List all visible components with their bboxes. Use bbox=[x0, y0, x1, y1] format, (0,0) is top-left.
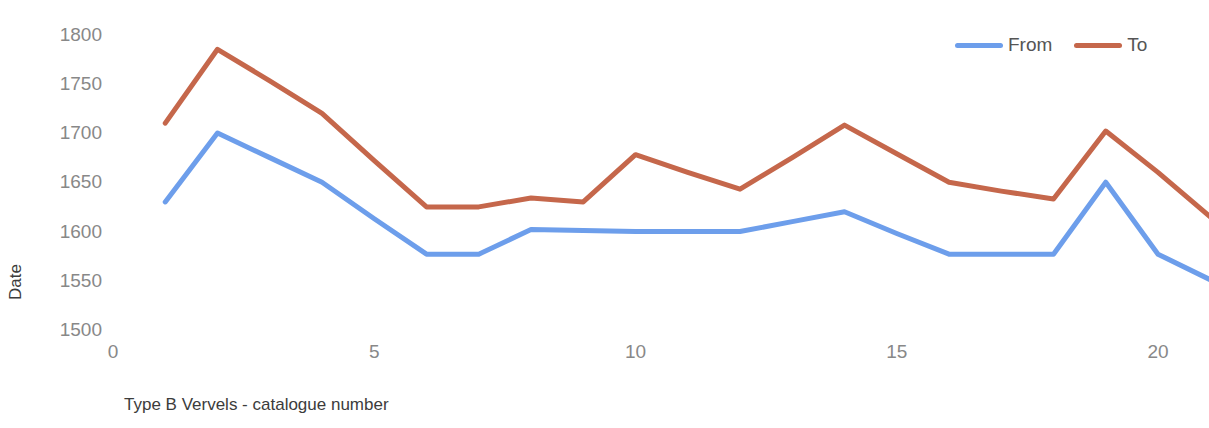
legend-item-to[interactable]: To bbox=[1074, 34, 1147, 56]
x-tick-label: 5 bbox=[344, 342, 404, 361]
series-line-from bbox=[165, 133, 1209, 280]
x-tick-label: 0 bbox=[83, 342, 143, 361]
x-tick-label: 10 bbox=[606, 342, 666, 361]
x-axis-title: Type B Vervels - catalogue number bbox=[124, 395, 389, 415]
x-tick-label: 15 bbox=[867, 342, 927, 361]
legend-swatch-icon bbox=[955, 43, 1003, 48]
legend-item-from[interactable]: From bbox=[955, 34, 1052, 56]
series-lines bbox=[165, 49, 1209, 279]
series-line-to bbox=[165, 49, 1209, 216]
legend-label: To bbox=[1127, 34, 1147, 56]
plot-area bbox=[0, 0, 1209, 428]
chart-legend: FromTo bbox=[955, 34, 1169, 56]
line-chart: Date 1500155016001650170017501800 FromTo… bbox=[0, 0, 1209, 428]
legend-label: From bbox=[1008, 34, 1052, 56]
legend-swatch-icon bbox=[1074, 43, 1122, 48]
x-tick-label: 20 bbox=[1128, 342, 1188, 361]
